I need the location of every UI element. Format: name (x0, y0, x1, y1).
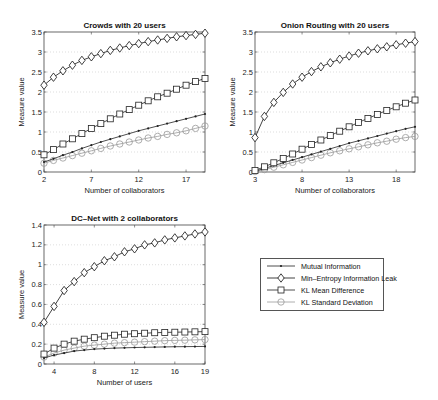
dot-marker-icon (144, 346, 146, 348)
x-axis-label: Number of collaborators (84, 186, 164, 195)
x-tick-label: 8 (92, 367, 96, 376)
diamond-marker-icon (393, 41, 399, 49)
dot-marker-icon (265, 261, 297, 271)
series-kl-mean-difference (252, 97, 418, 173)
dot-marker-icon (43, 161, 45, 163)
chart-title: DC–Net with 2 collaborators (71, 214, 178, 223)
dot-marker-icon (138, 130, 140, 132)
square-marker-icon (50, 147, 56, 153)
dot-marker-icon (184, 346, 186, 348)
diamond-marker-icon (69, 61, 75, 69)
square-marker-icon (261, 164, 267, 170)
dot-marker-icon (174, 346, 176, 348)
y-tick-label: 1 (38, 260, 42, 269)
dot-marker-icon (329, 148, 331, 150)
diamond-marker-icon (117, 44, 123, 52)
x-tick-label: 16 (171, 367, 179, 376)
square-marker-icon (117, 111, 123, 117)
square-marker-icon (41, 351, 47, 357)
square-marker-icon (365, 115, 371, 121)
series-min-entropy-information-leak (41, 29, 208, 89)
y-tick-label: 2 (38, 88, 42, 97)
square-marker-icon (60, 141, 66, 147)
series-min-entropy-information-leak (41, 228, 208, 327)
diamond-marker-icon (327, 59, 333, 67)
square-marker-icon (192, 329, 198, 335)
diamond-marker-icon (173, 33, 179, 41)
dot-marker-icon (154, 346, 156, 348)
diamond-marker-icon (101, 257, 107, 265)
y-tick-label: 1.4 (32, 221, 42, 230)
square-marker-icon (327, 133, 333, 139)
diamond-marker-icon (202, 228, 208, 236)
legend-item-kl-standard-deviation: KL Standard Deviation (265, 296, 373, 308)
series-min-entropy-information-leak (252, 37, 418, 141)
square-marker-icon (107, 116, 113, 122)
square-marker-icon (356, 119, 362, 125)
y-tick-label: 0.4 (32, 320, 42, 329)
x-tick-label: 7 (89, 175, 93, 184)
square-marker-icon (299, 146, 305, 152)
diamond-marker-icon (183, 31, 189, 39)
legend-item-min-entropy: Min–Entropy Information Leak (265, 272, 397, 284)
diamond-marker-icon (88, 53, 94, 61)
dot-marker-icon (113, 347, 115, 349)
diamond-marker-icon (278, 274, 284, 282)
square-marker-icon (98, 121, 104, 127)
dot-marker-icon (90, 144, 92, 146)
y-axis-label: Measure value (17, 270, 26, 319)
diamond-marker-icon (107, 46, 113, 54)
square-marker-icon (174, 86, 180, 92)
diamond-marker-icon (355, 49, 361, 57)
y-tick-label: 3 (249, 48, 253, 57)
dot-marker-icon (93, 348, 95, 350)
diamond-marker-icon (98, 49, 104, 57)
square-marker-icon (41, 152, 47, 158)
dot-marker-icon (194, 345, 196, 347)
legend-item-kl-mean-difference: KL Mean Difference (265, 284, 364, 296)
chart-title: Crowds with 20 users (83, 21, 166, 30)
dot-marker-icon (320, 151, 322, 153)
x-tick-label: 18 (392, 175, 400, 184)
y-tick-label: 0.2 (32, 340, 42, 349)
square-marker-icon (61, 341, 67, 347)
diamond-marker-icon (91, 263, 97, 271)
dot-marker-icon (166, 123, 168, 125)
series-mutual-information (43, 113, 206, 163)
x-tick-label: 8 (300, 175, 304, 184)
y-tick-label: 0.5 (243, 148, 253, 157)
diamond-marker-icon (164, 34, 170, 42)
diamond-marker-icon (182, 232, 188, 240)
square-marker-icon (91, 335, 97, 341)
dot-marker-icon (292, 159, 294, 161)
dot-marker-icon (109, 138, 111, 140)
legend-item-mutual-information: Mutual Information (265, 260, 361, 272)
dot-marker-icon (185, 118, 187, 120)
series-kl-mean-difference (41, 75, 208, 157)
dot-marker-icon (414, 126, 416, 128)
x-tick-label: 12 (130, 367, 138, 376)
dot-marker-icon (128, 133, 130, 135)
diamond-marker-icon (50, 73, 56, 81)
diamond-marker-icon (111, 253, 117, 261)
dot-marker-icon (310, 153, 312, 155)
square-marker-icon (122, 331, 128, 337)
y-tick-label: 1.2 (32, 240, 42, 249)
diamond-marker-icon (299, 73, 305, 81)
series-mutual-information (254, 126, 416, 173)
diamond-marker-icon (412, 37, 418, 45)
y-axis-label: Measure value (17, 77, 26, 126)
x-tick-label: 13 (345, 175, 353, 184)
diamond-marker-icon (192, 230, 198, 238)
square-marker-icon (252, 167, 258, 173)
y-tick-label: 0.5 (32, 148, 42, 157)
diamond-marker-icon (337, 55, 343, 63)
square-marker-icon (162, 329, 168, 335)
dot-marker-icon (301, 156, 303, 158)
dot-marker-icon (164, 346, 166, 348)
diamond-marker-icon (202, 29, 208, 37)
diamond-marker-icon (162, 236, 168, 244)
x-tick-label: 17 (182, 175, 190, 184)
diamond-marker-icon (126, 41, 132, 49)
dot-marker-icon (376, 135, 378, 137)
